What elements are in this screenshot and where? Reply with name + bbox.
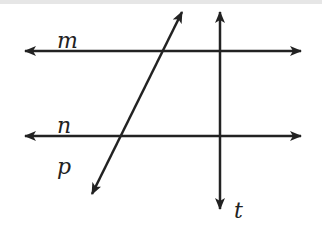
label-n: n <box>57 113 71 138</box>
label-t: t <box>234 198 243 223</box>
line-p <box>92 12 182 194</box>
parallel-lines-diagram: m n p t <box>0 0 322 225</box>
label-m: m <box>57 28 78 53</box>
label-p: p <box>57 154 71 179</box>
